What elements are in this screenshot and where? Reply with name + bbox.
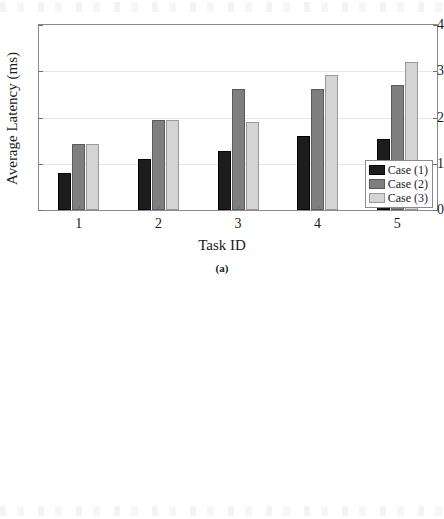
bar-case3-task-3 xyxy=(246,122,259,210)
figure-a: Case (1)Case (2)Case (3) Average Latency… xyxy=(0,0,444,282)
x-axis-label-a: Task ID xyxy=(0,237,444,254)
legend-swatch-icon xyxy=(369,193,385,203)
bar-case3-task-4 xyxy=(325,75,338,210)
y-tick-mark xyxy=(39,210,43,211)
legend-label: Case (2) xyxy=(388,178,428,190)
y-tick-mark xyxy=(39,71,43,72)
bar-case1-task-2 xyxy=(138,159,151,210)
y-axis-label-a: Average Latency (ms) xyxy=(4,18,21,218)
bar-case1-task-3 xyxy=(218,151,231,210)
figure-b: Case (1)Case (2)Case (3) Average Latency… xyxy=(0,282,444,519)
x-tick-label: 3 xyxy=(235,217,242,231)
y-tick-label: 1 xyxy=(411,157,444,171)
bar-case1-task-1 xyxy=(58,173,71,210)
subfigure-caption-a: (a) xyxy=(0,262,444,274)
x-tick-label: 1 xyxy=(75,217,82,231)
legend-item-case2[interactable]: Case (2) xyxy=(369,177,428,191)
x-tick-mark xyxy=(79,206,80,210)
x-tick-mark xyxy=(238,206,239,210)
y-tick-label: 4 xyxy=(411,18,444,32)
y-tick-label: 2 xyxy=(411,111,444,125)
bar-case3-task-2 xyxy=(166,120,179,210)
bar-case1-task-4 xyxy=(297,136,310,210)
y-tick-mark xyxy=(39,118,43,119)
y-tick-label: 3 xyxy=(411,64,444,78)
x-tick-mark xyxy=(158,206,159,210)
bar-case2-task-3 xyxy=(232,89,245,210)
legend-swatch-icon xyxy=(369,165,385,175)
x-tick-mark xyxy=(318,206,319,210)
x-tick-label: 2 xyxy=(155,217,162,231)
x-tick-label: 5 xyxy=(394,217,401,231)
bar-case2-task-2 xyxy=(152,120,165,210)
bar-case2-task-4 xyxy=(311,89,324,210)
legend-swatch-icon xyxy=(369,179,385,189)
x-tick-label: 4 xyxy=(314,217,321,231)
gridline xyxy=(39,71,437,72)
y-tick-label: 0 xyxy=(411,203,444,217)
plot-area-a: Case (1)Case (2)Case (3) xyxy=(38,24,438,211)
y-tick-mark xyxy=(39,164,43,165)
bar-case2-task-1 xyxy=(72,144,85,210)
bar-case3-task-1 xyxy=(86,144,99,210)
y-tick-mark xyxy=(39,25,43,26)
